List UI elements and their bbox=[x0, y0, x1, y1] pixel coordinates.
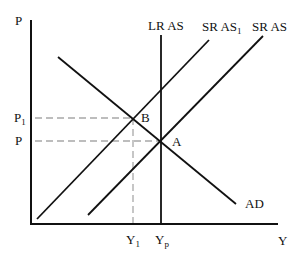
sras-label: SR AS bbox=[252, 19, 287, 34]
lras-label: LR AS bbox=[148, 18, 184, 33]
point-a-label: A bbox=[172, 134, 182, 149]
sras-curve bbox=[88, 36, 263, 215]
p-label: P bbox=[15, 133, 22, 148]
x-axis-label-right: Y bbox=[278, 233, 288, 248]
y-axis-label: P bbox=[15, 13, 22, 28]
point-b-label: B bbox=[141, 110, 150, 125]
ad-curve bbox=[58, 57, 236, 204]
y1-label: Y1 bbox=[126, 232, 140, 249]
sras1-curve bbox=[37, 40, 209, 219]
p1-label: P1 bbox=[14, 110, 26, 127]
sras1-label: SR AS1 bbox=[202, 19, 242, 36]
ad-as-diagram: P Y LR AS SR AS1 SR AS AD B A P1 P Y1 Yp bbox=[0, 0, 301, 257]
yp-label: Yp bbox=[155, 232, 169, 249]
ad-label: AD bbox=[245, 196, 264, 211]
